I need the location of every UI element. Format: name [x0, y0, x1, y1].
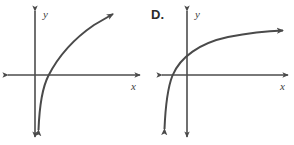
logarithmic-curve-right	[165, 31, 284, 130]
graph-figure-svg: x y D. x y	[0, 0, 294, 145]
logarithmic-curve-left	[39, 14, 114, 130]
y-axis-label-left: y	[42, 8, 48, 20]
x-axis-label-left: x	[130, 80, 136, 92]
x-axis-label-right: x	[279, 80, 285, 92]
y-axis-label-right: y	[194, 8, 200, 20]
choice-label-d: D.	[151, 7, 164, 22]
figure-container: x y D. x y	[0, 0, 294, 145]
panel-left: x y	[8, 8, 140, 137]
panel-right: D. x y	[151, 7, 288, 137]
